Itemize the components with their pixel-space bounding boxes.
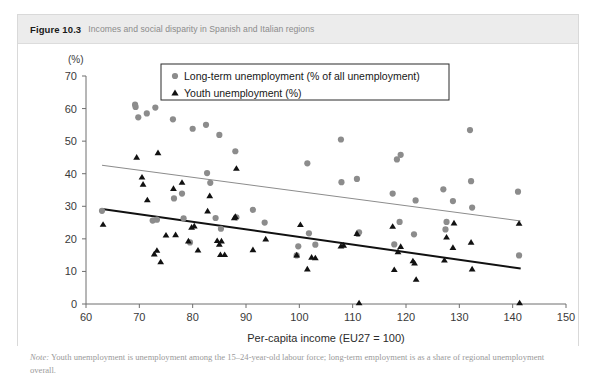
data-point-circle [152,104,158,110]
legend-label: Youth unemployment (%) [184,87,302,99]
y-axis-tick-label: 70 [65,70,77,82]
data-point-circle [312,242,318,248]
x-axis-tick-label: 120 [397,311,415,323]
data-point-circle [295,243,301,249]
plot-area: (%)0102030405060706070809010011012013014… [18,44,578,346]
data-point-triangle [469,266,476,272]
y-axis-unit-label: (%) [68,54,84,65]
data-point-circle [469,204,475,210]
data-point-triangle [450,244,457,250]
data-point-circle [354,176,360,182]
x-axis-tick-label: 110 [344,311,362,323]
data-point-triangle [413,276,420,282]
data-point-circle [250,207,256,213]
y-axis-tick-label: 60 [65,103,77,115]
data-point-circle [181,215,187,221]
data-point-circle [515,189,521,195]
x-axis-tick-label: 70 [133,311,145,323]
data-point-triangle [133,154,140,160]
data-point-circle [306,230,312,236]
x-axis-tick-label: 130 [450,311,468,323]
data-point-circle [391,241,397,247]
data-point-triangle [389,223,396,229]
x-axis-title: Per-capita income (EU27 = 100) [247,332,404,344]
data-point-triangle [163,232,170,238]
data-point-circle [397,219,403,225]
y-axis-tick-label: 20 [65,233,77,245]
data-point-circle [213,215,219,221]
data-point-triangle [356,300,363,306]
data-point-triangle [233,165,240,171]
data-point-circle [203,122,209,128]
x-axis-tick-label: 100 [290,311,308,323]
data-point-triangle [250,247,257,253]
y-axis-tick-label: 10 [65,265,77,277]
figure-note: Note: Youth unemployment is unemployment… [30,351,570,376]
data-point-circle [450,198,456,204]
data-point-circle [338,136,344,142]
note-prefix: Note: [30,352,49,362]
data-point-triangle [443,234,450,240]
data-point-circle [443,219,449,225]
data-point-circle [99,208,105,214]
data-point-circle [468,178,474,184]
figure-caption: Incomes and social disparity in Spanish … [88,24,314,34]
data-point-triangle [221,251,228,257]
data-point-triangle [516,220,523,226]
data-point-circle [442,226,448,232]
series-long-term-unemployment [99,102,522,259]
data-point-circle [390,190,396,196]
data-point-triangle [139,174,146,180]
trendline [102,165,521,221]
data-point-circle [170,116,176,122]
legend-marker-circle-icon [172,73,178,79]
scatter-chart: (%)0102030405060706070809010011012013014… [18,44,578,344]
data-point-circle [218,226,224,232]
data-point-circle [179,190,185,196]
data-point-circle [232,148,238,154]
data-point-triangle [144,197,151,203]
data-point-circle [133,104,139,110]
data-point-circle [204,170,210,176]
data-point-triangle [297,222,304,228]
y-axis-tick-label: 50 [65,135,77,147]
data-point-triangle [206,193,213,199]
y-axis-tick-label: 0 [71,298,77,310]
y-axis-tick-label: 40 [65,168,77,180]
data-point-circle [398,152,404,158]
data-point-circle [207,180,213,186]
x-axis-tick-label: 140 [503,311,521,323]
data-point-triangle [195,247,202,253]
data-point-circle [135,114,141,120]
data-point-circle [411,231,417,237]
data-point-triangle [100,221,107,227]
data-point-triangle [179,179,186,185]
figure-header: Figure 10.3 Incomes and social disparity… [18,15,578,44]
figure-card: Figure 10.3 Incomes and social disparity… [17,14,579,346]
x-axis-tick-label: 150 [557,311,575,323]
y-axis-tick-label: 30 [65,200,77,212]
data-point-triangle [140,181,147,187]
figure-label: Figure 10.3 [30,24,81,35]
data-point-circle [440,186,446,192]
data-point-triangle [154,247,161,253]
data-point-circle [190,126,196,132]
x-axis-tick-label: 80 [187,311,199,323]
data-point-circle [171,195,177,201]
x-axis-tick-label: 90 [240,311,252,323]
data-point-circle [262,219,268,225]
data-point-triangle [155,150,162,156]
data-point-circle [516,252,522,258]
data-point-triangle [157,259,164,265]
legend-label: Long-term unemployment (% of all unemplo… [184,70,420,82]
data-point-triangle [172,232,179,238]
data-point-triangle [262,236,269,242]
data-point-triangle [516,300,523,306]
data-point-circle [413,197,419,203]
data-point-circle [338,179,344,185]
data-point-triangle [468,239,475,245]
data-point-circle [304,160,310,166]
data-point-triangle [397,243,404,249]
data-point-triangle [451,220,458,226]
data-point-triangle [304,266,311,272]
